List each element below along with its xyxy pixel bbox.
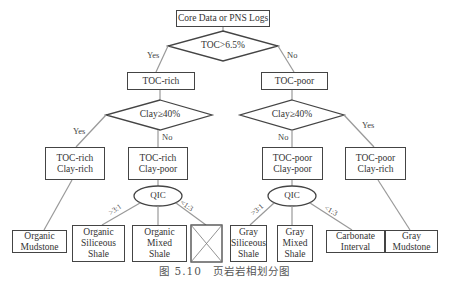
toc-poor-clay-rich-node: TOC-poor Clay-rich bbox=[345, 147, 406, 180]
carbonate-interval-node: Carbonate Interval bbox=[326, 230, 385, 253]
node-line: TOC-rich bbox=[57, 153, 94, 164]
node-line: TOC-rich bbox=[140, 153, 177, 164]
node-line: Organic bbox=[144, 227, 174, 238]
toc-rich-node: TOC-rich bbox=[127, 72, 195, 90]
toc-rich-label: TOC-rich bbox=[143, 76, 180, 87]
node-line: Shale bbox=[284, 249, 305, 260]
node-line: Shale bbox=[149, 249, 170, 260]
node-line: TOC-poor bbox=[356, 153, 395, 164]
node-line: Carbonate bbox=[336, 231, 375, 242]
right-clay-no-label: No bbox=[278, 132, 288, 142]
qic-right-label: QIC bbox=[272, 190, 312, 200]
organic-siliceous-shale-node: Organic Siliceous Shale bbox=[72, 225, 125, 262]
left-clay-yes-label: Yes bbox=[73, 126, 85, 136]
organic-mixed-shale-node: Organic Mixed Shale bbox=[132, 225, 187, 262]
node-line: Clay-rich bbox=[57, 164, 93, 175]
root-node: Core Data or PNS Logs bbox=[176, 10, 270, 27]
node-line: TOC-poor bbox=[273, 153, 312, 164]
toc-rich-clay-poor-node: TOC-rich Clay-poor bbox=[128, 147, 188, 180]
node-line: Shale bbox=[238, 249, 259, 260]
crossed-empty-box bbox=[191, 225, 222, 262]
node-line: Mudstone bbox=[393, 242, 431, 253]
right-clay-yes-label: Yes bbox=[362, 120, 374, 130]
node-line: Clay-poor bbox=[273, 164, 312, 175]
node-line: Gray bbox=[402, 231, 421, 242]
node-line: Organic bbox=[24, 231, 54, 242]
toc-rich-clay-rich-node: TOC-rich Clay-rich bbox=[45, 147, 105, 180]
node-line: Siliceous bbox=[231, 238, 266, 249]
node-line: Organic bbox=[83, 227, 113, 238]
node-line: Gray bbox=[239, 227, 258, 238]
clay-decision-right-label: Clay≥40% bbox=[262, 109, 322, 119]
qic-left-label: QIC bbox=[138, 190, 178, 200]
toc-poor-label: TOC-poor bbox=[275, 76, 314, 87]
node-line: Clay-poor bbox=[139, 164, 178, 175]
gray-mudstone-node: Gray Mudstone bbox=[385, 230, 438, 253]
node-line: Gray bbox=[286, 227, 305, 238]
left-clay-no-label: No bbox=[162, 132, 172, 142]
root-label: Core Data or PNS Logs bbox=[178, 13, 268, 24]
toc-no-label: No bbox=[287, 50, 297, 60]
gray-siliceous-shale-node: Gray Siliceous Shale bbox=[230, 225, 267, 262]
node-line: Clay-rich bbox=[358, 164, 394, 175]
toc-poor-node: TOC-poor bbox=[261, 72, 328, 90]
node-line: Shale bbox=[88, 249, 109, 260]
toc-decision-label: TOC>6.5% bbox=[193, 40, 253, 50]
node-line: Mixed bbox=[283, 238, 308, 249]
node-line: Siliceous bbox=[81, 238, 116, 249]
node-line: Mixed bbox=[147, 238, 172, 249]
toc-yes-label: Yes bbox=[147, 50, 159, 60]
clay-decision-left-label: Clay≥40% bbox=[130, 109, 190, 119]
organic-mudstone-node: Organic Mudstone bbox=[12, 230, 67, 253]
node-line: Mudstone bbox=[21, 242, 59, 253]
toc-poor-clay-poor-node: TOC-poor Clay-poor bbox=[262, 147, 323, 180]
node-line: Interval bbox=[341, 242, 371, 253]
gray-mixed-shale-node: Gray Mixed Shale bbox=[277, 225, 313, 262]
figure-caption: 图 5.10 页岩岩相划分图 bbox=[0, 263, 449, 278]
